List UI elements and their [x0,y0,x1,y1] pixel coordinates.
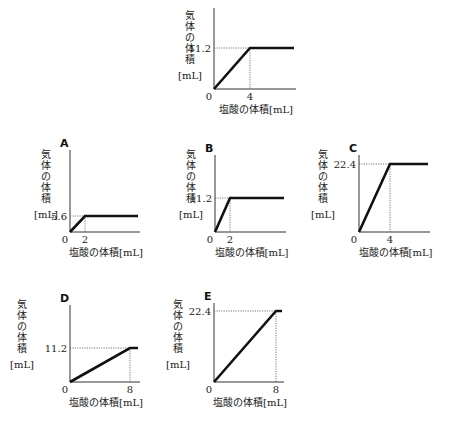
svg-text:の: の [186,171,196,182]
data-line [70,216,138,232]
svg-text:体: 体 [41,160,51,171]
x-tick-origin: 0 [207,234,213,245]
svg-text:体: 体 [17,310,27,321]
svg-text:体: 体 [186,182,196,193]
svg-text:積: 積 [17,342,27,354]
data-line [70,348,138,382]
x-tick-label: 2 [82,234,88,245]
x-tick-label: 8 [127,384,133,395]
svg-text:体: 体 [318,182,328,193]
svg-text:の: の [185,32,195,43]
svg-text:積: 積 [185,53,195,65]
x-tick-label: 4 [387,234,393,245]
y-axis-label: 気体の体積[mL] [166,298,190,370]
x-axis-label: 塩酸の体積[mL] [215,246,289,258]
y-tick-label: 22.4 [189,306,211,317]
x-axis-label: 塩酸の体積[mL] [213,396,287,408]
chart-B: B11.202塩酸の体積[mL]気体の体積[mL] [179,142,289,258]
svg-text:気: 気 [186,148,196,160]
panel-label: E [204,290,212,303]
svg-text:[mL]: [mL] [10,359,34,370]
x-axis-label: 塩酸の体積[mL] [69,396,143,408]
svg-text:気: 気 [318,148,328,160]
svg-text:体: 体 [186,160,196,171]
x-axis-label: 塩酸の体積[mL] [219,103,293,115]
svg-text:体: 体 [318,160,328,171]
chart-reference: 11.204塩酸の体積[mL]気体の体積[mL] [178,8,296,115]
svg-text:気: 気 [17,298,27,310]
svg-text:体: 体 [17,332,27,343]
svg-text:[mL]: [mL] [311,209,335,220]
svg-text:積: 積 [318,192,328,204]
svg-text:積: 積 [186,192,196,204]
svg-text:気: 気 [185,9,195,21]
svg-text:体: 体 [41,182,51,193]
svg-text:の: の [173,321,183,332]
svg-text:体: 体 [173,332,183,343]
y-axis-label: 気体の体積[mL] [10,298,34,370]
svg-text:気: 気 [173,298,183,310]
x-tick-label: 2 [227,234,233,245]
panel-label: C [349,142,357,155]
data-line [214,48,294,89]
svg-text:体: 体 [173,310,183,321]
svg-text:[mL]: [mL] [178,70,202,81]
svg-text:体: 体 [185,21,195,32]
x-tick-origin: 0 [351,234,357,245]
chart-A: A5.602塩酸の体積[mL]気体の体積[mL] [34,137,143,258]
svg-text:積: 積 [41,192,51,204]
x-tick-origin: 0 [206,91,212,102]
svg-text:体: 体 [185,43,195,54]
x-tick-label: 8 [273,384,279,395]
x-axis-label: 塩酸の体積[mL] [359,246,433,258]
data-line [215,198,284,232]
x-tick-origin: 0 [206,384,212,395]
svg-text:の: の [318,171,328,182]
data-line [359,164,428,232]
panel-label: D [60,292,69,305]
x-axis-label: 塩酸の体積[mL] [69,246,143,258]
svg-text:気: 気 [41,148,51,160]
svg-text:積: 積 [173,342,183,354]
chart-C: C22.404塩酸の体積[mL]気体の体積[mL] [311,142,433,258]
chart-E: E22.408塩酸の体積[mL]気体の体積[mL] [166,290,287,408]
chart-D: D11.208塩酸の体積[mL]気体の体積[mL] [10,292,143,408]
panel-label: B [205,142,213,155]
y-axis-label: 気体の体積[mL] [179,148,203,220]
data-line [214,311,282,382]
svg-text:[mL]: [mL] [166,359,190,370]
chart-canvas: 11.204塩酸の体積[mL]気体の体積[mL]A5.602塩酸の体積[mL]気… [0,0,451,428]
x-tick-origin: 0 [62,234,68,245]
x-tick-label: 4 [247,91,253,102]
y-tick-label: 11.2 [45,343,67,354]
svg-text:[mL]: [mL] [179,209,203,220]
y-axis-label: 気体の体積[mL] [34,148,58,220]
y-axis-label: 気体の体積[mL] [311,148,335,220]
svg-text:の: の [17,321,27,332]
panel-label: A [60,137,69,150]
svg-text:の: の [41,171,51,182]
svg-text:[mL]: [mL] [34,209,58,220]
y-tick-label: 22.4 [334,159,356,170]
x-tick-origin: 0 [62,384,68,395]
